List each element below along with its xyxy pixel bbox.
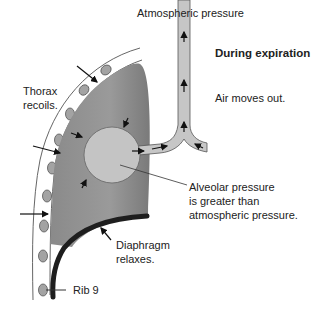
thorax-label-2: recoils.	[23, 98, 58, 112]
alveolar-label-1: Alveolar pressure	[189, 180, 275, 194]
phase-title: During expiration	[215, 46, 310, 60]
atmospheric-pressure-label: Atmospheric pressure	[137, 6, 244, 20]
alveolus	[84, 127, 140, 183]
alveolar-label-2: is greater than	[189, 194, 259, 208]
diaphragm-label-2: relaxes.	[116, 252, 155, 266]
rib-9-label: Rib 9	[73, 283, 99, 297]
air-moves-label: Air moves out.	[215, 91, 285, 105]
thorax-label-1: Thorax	[23, 84, 57, 98]
alveolar-label-3: atmospheric pressure.	[189, 208, 298, 222]
diaphragm-label-1: Diaphragm	[116, 238, 170, 252]
